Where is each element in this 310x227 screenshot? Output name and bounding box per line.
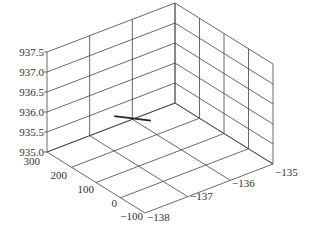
3d-line-chart: 937.5 937.0 936.5 936.0 935.5 935.0 300 … xyxy=(0,0,310,227)
z-tick-label: 935.5 xyxy=(19,126,44,138)
y-tick-label: 300 xyxy=(24,155,41,167)
z-tick-label: 936.5 xyxy=(19,86,44,98)
y-tick-label: 200 xyxy=(51,169,68,181)
y-tick-label: 0 xyxy=(112,197,118,209)
z-axis-tick-labels: 937.5 937.0 936.5 936.0 935.5 935.0 xyxy=(19,46,44,158)
x-tick-label: −136 xyxy=(232,177,255,189)
z-tick-label: 936.0 xyxy=(19,106,44,118)
x-axis-tick-labels: −138 −137 −136 −135 xyxy=(147,166,298,223)
y-tick-label: 100 xyxy=(78,183,95,195)
x-tick-label: −135 xyxy=(275,166,298,178)
x-tick-label: −137 xyxy=(190,190,213,202)
y-axis-tick-labels: 300 200 100 0 −100 xyxy=(24,155,144,222)
z-tick-label: 937.0 xyxy=(19,66,44,78)
z-tick-label: 937.5 xyxy=(19,46,44,58)
x-tick-label: −138 xyxy=(147,211,170,223)
y-tick-label: −100 xyxy=(120,210,143,222)
